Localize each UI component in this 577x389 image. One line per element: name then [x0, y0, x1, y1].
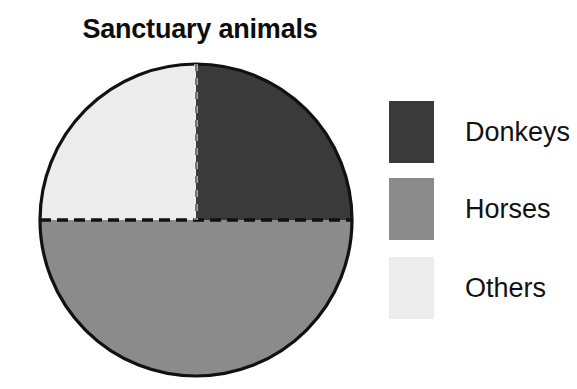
legend-swatch-horses — [389, 178, 434, 240]
legend-label-others: Others — [465, 257, 546, 319]
legend-item-others[interactable]: Others — [389, 257, 577, 319]
pie-chart — [38, 62, 354, 379]
legend-item-horses[interactable]: Horses — [389, 178, 577, 240]
pie-slice-donkeys[interactable] — [196, 64, 352, 220]
legend-swatch-donkeys — [389, 101, 434, 163]
legend-label-horses: Horses — [465, 178, 551, 240]
legend: Donkeys Horses Others — [389, 101, 577, 321]
pie-slice-horses[interactable] — [40, 220, 352, 376]
legend-label-donkeys: Donkeys — [465, 101, 570, 163]
pie-chart-svg — [38, 62, 354, 379]
page-title: Sanctuary animals — [0, 14, 400, 45]
legend-swatch-others — [389, 257, 434, 319]
legend-item-donkeys[interactable]: Donkeys — [389, 101, 577, 163]
pie-slice-others[interactable] — [40, 64, 196, 220]
